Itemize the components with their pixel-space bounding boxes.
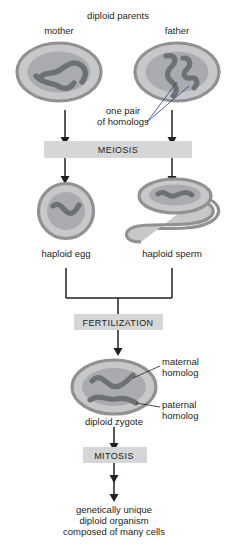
meiosis-bar-label: MEIOSIS [44,144,192,155]
fertilization-bar-label: FERTILIZATION [74,317,163,328]
diploid-zygote-label: diploid zygote [85,417,143,428]
haploid-egg-label: haploid egg [41,249,90,260]
paternal-homolog-label: homolog [162,411,198,422]
diploid-parents-label: diploid parents [87,11,149,22]
father-cell [135,43,219,122]
maternal-label: maternal [162,357,199,368]
of-homologs-label: of homologs [97,117,149,128]
maternal-homolog-label: homolog [162,368,198,379]
paternal-label: paternal [162,400,196,411]
mitosis-bar-label: MITOSIS [82,450,146,461]
egg-cell [39,184,94,239]
diagram-canvas: diploid parents mother father one pair o… [0,0,236,554]
fertilization-bracket [66,268,172,298]
father-label: father [165,26,189,37]
haploid-sperm-label: haploid sperm [142,249,202,260]
sperm-cell [126,179,218,242]
outcome-line-2: diploid organism [79,516,148,527]
mother-label: mother [44,26,74,37]
outcome-line-1: genetically unique [76,505,152,516]
outcome-line-3: composed of many cells [63,527,165,538]
zygote-cell [72,360,160,414]
one-pair-label: one pair [106,106,140,117]
mother-cell [17,43,101,101]
diagram-graphics [0,0,236,554]
